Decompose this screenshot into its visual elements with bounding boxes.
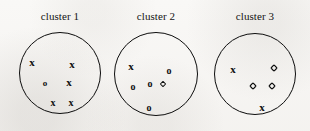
data-point-x-marker: x — [128, 61, 134, 72]
data-point-x-marker: x — [66, 77, 72, 88]
data-point-o-marker: o — [167, 66, 172, 76]
cluster-title-1: cluster 1 — [9, 10, 111, 22]
data-point-x-marker: x — [69, 59, 75, 70]
cluster-group-2: cluster 2xoooo — [104, 0, 208, 131]
cluster-group-3: cluster 3xx — [204, 0, 306, 131]
data-point-diamond-marker — [271, 65, 278, 72]
data-point-diamond-marker — [160, 81, 166, 87]
data-point-o-marker: o — [131, 82, 136, 92]
data-point-o-marker: o — [147, 103, 152, 113]
data-point-x-marker: x — [69, 98, 74, 108]
cluster-boundary-circle-1 — [19, 32, 101, 114]
cluster-group-1: cluster 1xxoxxx — [9, 0, 111, 131]
clusters-figure: cluster 1xxoxxxcluster 2xoooocluster 3xx — [0, 0, 310, 131]
data-point-o-marker: o — [43, 79, 48, 88]
cluster-title-3: cluster 3 — [204, 10, 306, 22]
data-point-x-marker: x — [29, 57, 35, 68]
data-point-x-marker: x — [230, 64, 236, 75]
data-point-diamond-marker — [269, 83, 276, 90]
cluster-boundary-circle-3 — [214, 33, 296, 115]
data-point-diamond-marker — [250, 83, 257, 90]
cluster-title-2: cluster 2 — [104, 10, 208, 22]
cluster-boundary-circle-2 — [114, 32, 198, 116]
data-point-o-marker: o — [148, 79, 153, 89]
data-point-x-marker: x — [259, 102, 265, 113]
data-point-x-marker: x — [51, 98, 56, 108]
